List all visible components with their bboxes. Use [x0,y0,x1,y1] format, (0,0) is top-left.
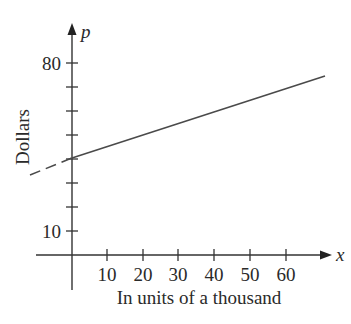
y-axis-arrow-icon [68,23,77,35]
y-axis-variable: p [79,21,91,42]
x-tick-labels: 10 20 30 40 50 60 [98,264,296,285]
y-axis-title: Dollars [12,109,33,165]
y-tick-label-80: 80 [42,53,61,74]
x-axis-arrow-icon [320,251,332,260]
chart: p x 80 10 10 20 30 40 50 60 In units of … [0,0,351,324]
svg-text:10: 10 [98,264,117,285]
svg-text:60: 60 [277,264,296,285]
dashed-extension-line [30,158,72,175]
svg-text:20: 20 [134,264,153,285]
x-axis-title: In units of a thousand [117,287,282,308]
svg-text:30: 30 [169,264,188,285]
x-axis-variable: x [335,244,345,265]
y-tick-label-10: 10 [42,221,61,242]
svg-text:40: 40 [205,264,224,285]
solid-data-line [72,76,325,158]
svg-text:50: 50 [241,264,260,285]
